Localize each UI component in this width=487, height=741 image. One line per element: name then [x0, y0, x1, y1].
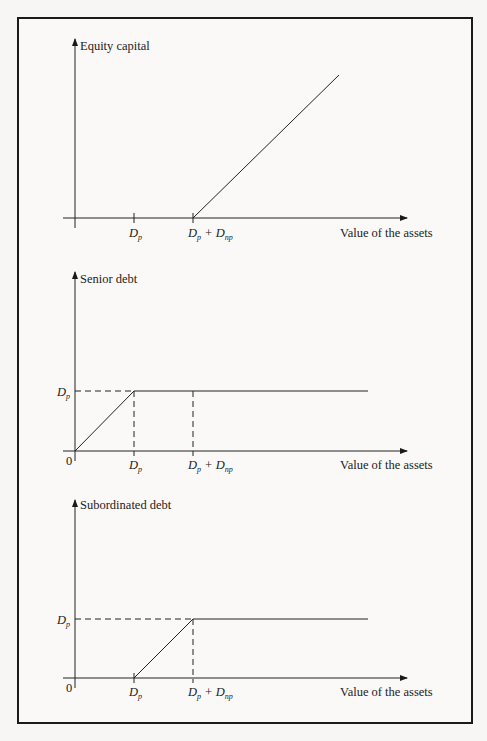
payoff-diagrams: Equity capital Dp Dp + Dnp Value of the … [0, 0, 487, 741]
tick-label-dp-dnp: Dp + Dnp [187, 458, 233, 474]
y-axis-label: Subordinated debt [80, 498, 172, 512]
tick-label-dp-dnp: Dp + Dnp [187, 226, 233, 242]
origin-label: 0 [66, 681, 72, 695]
tick-label-dp-dnp: Dp + Dnp [187, 685, 233, 701]
chart-subordinated-debt: Subordinated debt Dp 0 Dp Dp + Dnp Value… [56, 498, 433, 701]
chart-equity-capital: Equity capital Dp Dp + Dnp Value of the … [63, 39, 433, 242]
payoff-line [193, 75, 339, 218]
x-axis-label: Value of the assets [340, 458, 433, 472]
x-axis-label: Value of the assets [340, 226, 433, 240]
y-tick-label-dp: Dp [56, 385, 70, 401]
tick-label-dp: Dp [128, 226, 142, 242]
tick-label-dp: Dp [128, 685, 142, 701]
payoff-line [134, 619, 368, 678]
origin-label: 0 [66, 454, 72, 468]
chart-senior-debt: Senior debt Dp 0 Dp Dp + Dnp Value of th… [56, 272, 433, 474]
payoff-line [75, 391, 368, 451]
y-axis-label: Equity capital [80, 39, 150, 53]
tick-label-dp: Dp [128, 458, 142, 474]
y-axis-label: Senior debt [80, 272, 138, 286]
y-tick-label-dp: Dp [56, 613, 70, 629]
x-axis-label: Value of the assets [340, 685, 433, 699]
